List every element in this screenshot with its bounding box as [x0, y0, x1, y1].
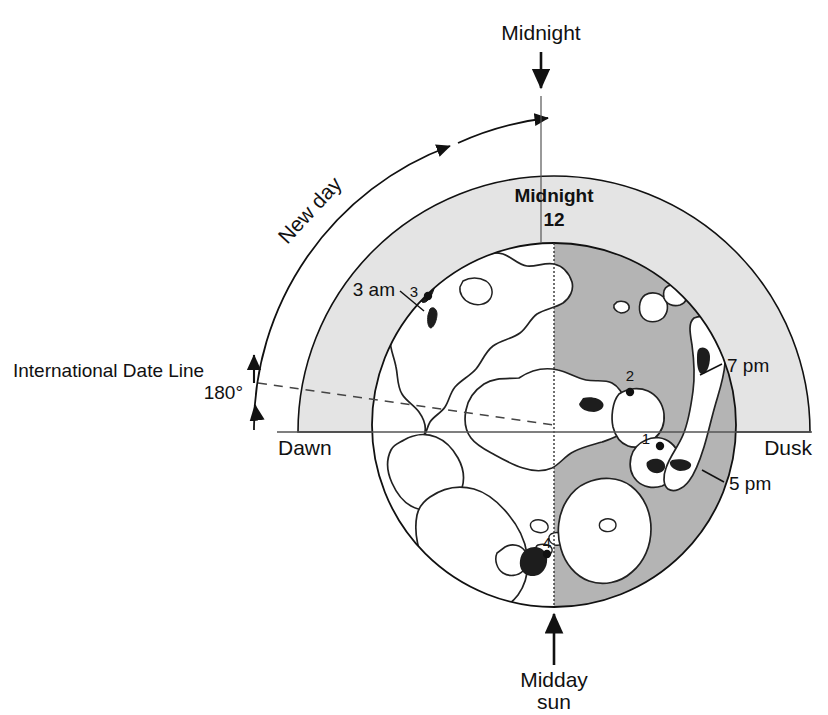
idl-label-line1: International Date Line [13, 360, 204, 381]
midday-label-line2: sun [537, 690, 571, 713]
idl-label-group: International Date Line 180° [13, 360, 243, 403]
dawn-label: Dawn [278, 436, 332, 459]
land-island-iceland [599, 519, 616, 532]
marker-dot-2 [626, 388, 634, 396]
midnight-top-label: Midnight [501, 21, 581, 44]
earth-date-line-diagram: New day Midnight Midnight 12 3 am 7 pm 5… [0, 0, 828, 715]
midday-sun-group: Midday sun [520, 614, 588, 713]
marker-label-3: 3 [410, 283, 418, 300]
three-am-label: 3 am [353, 279, 395, 300]
idl-label-line2: 180° [204, 382, 243, 403]
new-day-arc-segment-2 [458, 118, 548, 143]
new-day-arc-tail-arrow [255, 405, 257, 420]
marker-dot-3 [424, 292, 432, 300]
marker-label-2: 2 [626, 367, 634, 384]
dusk-label: Dusk [764, 436, 812, 459]
marker-label-1: 1 [642, 430, 650, 447]
marker-dot-1 [656, 442, 664, 450]
location-marker-4: 4 [543, 534, 551, 558]
midnight-centre-label: Midnight [514, 185, 594, 206]
new-day-label: New day [273, 172, 346, 248]
land-archipelago-1 [530, 520, 548, 533]
five-pm-label: 5 pm [729, 473, 771, 494]
seven-pm-label: 7 pm [727, 355, 769, 376]
marker-dot-4 [543, 550, 551, 558]
midnight-hour-label: 12 [543, 209, 564, 230]
marker-label-4: 4 [543, 534, 551, 551]
midday-label-line1: Midday [520, 668, 588, 691]
diagram-root: New day Midnight Midnight 12 3 am 7 pm 5… [0, 0, 828, 715]
location-marker-2: 2 [626, 367, 634, 396]
land-island-small [614, 301, 629, 313]
